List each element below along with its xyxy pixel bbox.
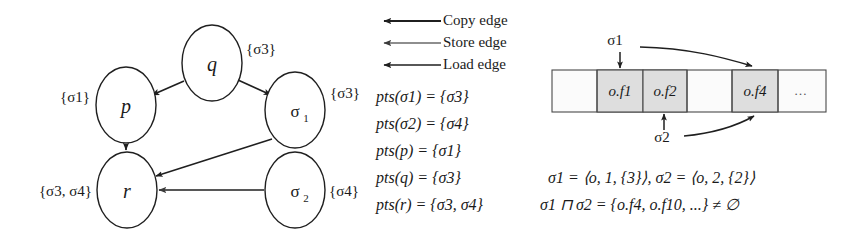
- node-sigma2[interactable]: σ 2 {σ4}: [265, 152, 359, 228]
- pts-equation-0: pts(σ1) = {σ3}: [376, 89, 469, 105]
- memory-box-frame: [552, 70, 826, 112]
- legend-item-load-label: Load edge: [443, 56, 506, 72]
- legend-item-store-label: Store edge: [443, 34, 507, 50]
- node-q-label: q: [207, 53, 217, 76]
- memory-cell-4-label: o.f4: [744, 83, 767, 99]
- node-sigma2-label: σ: [290, 182, 299, 201]
- node-sigma1-set-label: {σ3}: [330, 85, 360, 101]
- node-r-label: r: [123, 180, 131, 202]
- edge-q-to-p: [152, 81, 184, 95]
- edge-sigma1-to-r: [156, 139, 272, 176]
- node-p[interactable]: p {σ1}: [60, 67, 156, 143]
- node-sigma2-subscript: 2: [303, 192, 309, 204]
- memory-cell-2-label: o.f2: [654, 83, 677, 99]
- node-p-set-label: {σ1}: [60, 89, 90, 105]
- node-r[interactable]: r {σ3, σ4}: [39, 152, 157, 228]
- figure-root: p {σ1} q {σ3} σ 1 {σ3} r {σ3, σ4}: [0, 0, 866, 230]
- node-sigma1[interactable]: σ 1 {σ3}: [265, 72, 360, 148]
- legend-item-load: Load edge: [443, 57, 506, 72]
- node-q-set-label: {σ3}: [246, 41, 276, 57]
- pts-equation-4: pts(r) = {σ3, σ4}: [376, 197, 483, 213]
- memory-cell-1-label: o.f1: [609, 83, 632, 99]
- graph-nodes: p {σ1} q {σ3} σ 1 {σ3} r {σ3, σ4}: [39, 25, 360, 228]
- node-p-label: p: [119, 95, 131, 118]
- sigma1-pointer-to-cell4: [640, 47, 752, 66]
- sigma2-pointer-to-cell4: [684, 116, 754, 136]
- sigma1-pointer-label: σ1: [607, 32, 623, 48]
- node-sigma1-subscript: 1: [303, 112, 309, 124]
- edge-q-to-sigma1: [238, 80, 271, 95]
- memory-cell-5-label: …: [794, 83, 808, 98]
- legend-item-copy-label: Copy edge: [443, 12, 508, 28]
- node-sigma2-set-label: {σ4}: [329, 183, 359, 199]
- pts-equation-2: pts(p) = {σ1}: [376, 143, 461, 159]
- legend-item-store: Store edge: [443, 35, 507, 50]
- sigma2-pointer-label: σ2: [654, 129, 670, 145]
- node-r-set-label: {σ3, σ4}: [39, 183, 92, 199]
- memory-layout: o.f1 o.f2 o.f4 … σ1 σ2: [552, 32, 826, 145]
- legend-item-copy: Copy edge: [443, 13, 508, 28]
- pts-equation-3: pts(q) = {σ3}: [376, 170, 461, 186]
- sigma-intersection: σ1 ⊓ σ2 = {o.f4, o.f10, ...} ≠ ∅: [540, 197, 739, 213]
- node-q[interactable]: q {σ3}: [182, 25, 276, 101]
- legend-arrows: [384, 21, 441, 65]
- sigma-definitions: σ1 = ⟨o, 1, {3}⟩, σ2 = ⟨o, 2, {2}⟩: [548, 170, 755, 186]
- node-sigma1-label: σ: [290, 102, 299, 121]
- pts-equation-1: pts(σ2) = {σ4}: [376, 116, 469, 132]
